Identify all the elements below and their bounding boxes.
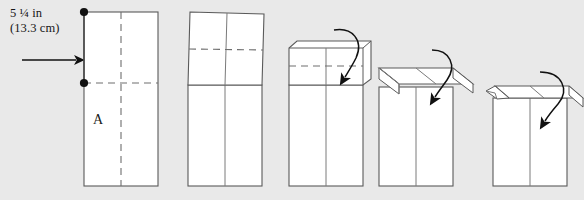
measurement-label: 5 ¼ in (13.3 cm) [10, 6, 88, 36]
measurement-value-centimeters: (13.3 cm) [10, 21, 88, 36]
lid-right-skirt-4 [453, 68, 473, 93]
measure-dot-bottom [80, 79, 88, 87]
step-5-flap-closed [486, 72, 583, 186]
step-4-flap-folding-down [379, 50, 473, 186]
step-3-flap-upright [289, 30, 371, 186]
step-2-flap-tilted [188, 12, 264, 186]
panel-letter-a: A [93, 112, 103, 128]
lid-right-skirt-5 [569, 86, 583, 107]
measurement-value-inches: 5 ¼ in [10, 6, 42, 20]
